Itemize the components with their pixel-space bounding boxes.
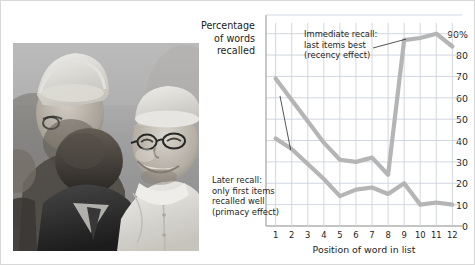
x-axis-tick-label: 9	[401, 230, 406, 240]
x-axis-tick-label: 2	[289, 230, 294, 240]
x-axis-tick-label: 6	[353, 230, 358, 240]
later-recall-annotation: Later recall: only first items recalled …	[212, 175, 279, 217]
x-axis-tick-label: 3	[305, 230, 310, 240]
x-axis-tick-label: 10	[415, 230, 426, 240]
figure-frame: Vincenzo Pinto/AFP/Getty Images Percenta…	[0, 0, 475, 265]
x-axis-tick-label: 7	[369, 230, 374, 240]
data-series-line	[276, 138, 453, 204]
x-axis-tick-label: 11	[431, 230, 442, 240]
x-axis-tick-label: 5	[337, 230, 342, 240]
immediate-recall-annotation: Immediate recall: last items best (recen…	[304, 29, 377, 61]
x-axis-tick-label: 1	[273, 230, 278, 240]
pope-greeting-crowd-photo: Vincenzo Pinto/AFP/Getty Images	[13, 43, 199, 251]
x-axis-tick-label: 4	[321, 230, 326, 240]
x-axis-title: Position of word in list	[266, 244, 462, 255]
annotation-leader-line	[373, 39, 406, 48]
x-axis-tick-label: 8	[385, 230, 390, 240]
photo-artwork	[13, 43, 199, 251]
recall-line-chart: 90%80706050403020100 123456789101112 Pos…	[206, 15, 468, 261]
x-axis-tick-label: 12	[447, 230, 458, 240]
